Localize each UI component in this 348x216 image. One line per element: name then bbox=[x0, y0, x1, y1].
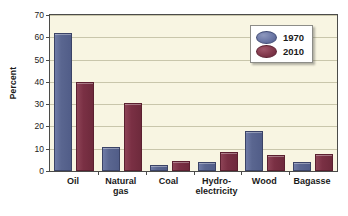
x-axis-tick-label: Hydro- electricity bbox=[193, 176, 241, 196]
y-axis-tick-label: 10 bbox=[35, 144, 44, 154]
bar-2010 bbox=[124, 103, 142, 171]
bar-1970 bbox=[150, 165, 168, 171]
x-axis-tick-label: Coal bbox=[145, 176, 193, 186]
bar-top-highlight bbox=[103, 148, 119, 149]
x-axis-tick bbox=[289, 171, 290, 175]
x-axis-tick-label: Oil bbox=[49, 176, 97, 186]
y-axis-tick bbox=[46, 171, 50, 172]
bar-top-highlight bbox=[246, 132, 262, 133]
bar-top-highlight bbox=[316, 155, 332, 156]
bar-group bbox=[194, 15, 242, 171]
legend-swatch-2010-icon bbox=[256, 45, 277, 58]
legend-item-1970: 1970 bbox=[256, 30, 304, 44]
bar-1970 bbox=[198, 162, 216, 171]
bar-group bbox=[50, 15, 98, 171]
y-axis-tick-label: 0 bbox=[39, 166, 44, 176]
legend-item-2010: 2010 bbox=[256, 44, 304, 58]
x-axis-tick-label: Natural gas bbox=[97, 176, 145, 196]
bar-group bbox=[98, 15, 146, 171]
bar-1970 bbox=[293, 162, 311, 171]
bar-top-highlight bbox=[125, 104, 141, 105]
bar-top-highlight bbox=[173, 162, 189, 163]
y-axis-tick-label: 40 bbox=[35, 77, 44, 87]
chart-legend: 1970 2010 bbox=[250, 25, 313, 63]
y-axis-tick-label: 30 bbox=[35, 99, 44, 109]
bar-top-highlight bbox=[55, 34, 71, 35]
legend-label-1970: 1970 bbox=[283, 32, 304, 43]
x-axis-tick-label: Bagasse bbox=[288, 176, 336, 186]
x-axis-tick bbox=[241, 171, 242, 175]
legend-swatch-1970-icon bbox=[256, 31, 277, 44]
bar-top-highlight bbox=[199, 163, 215, 164]
bar-chart-figure: Percent 010203040506070 1970 2010 OilNat… bbox=[0, 0, 348, 216]
bar-1970 bbox=[245, 131, 263, 171]
bar-top-highlight bbox=[77, 83, 93, 84]
bar-1970 bbox=[54, 33, 72, 171]
y-axis-tick-label: 20 bbox=[35, 121, 44, 131]
x-axis-tick-label: Wood bbox=[240, 176, 288, 186]
bar-group bbox=[146, 15, 194, 171]
y-axis-title: Percent bbox=[8, 48, 18, 118]
x-axis-tick bbox=[146, 171, 147, 175]
bar-1970 bbox=[102, 147, 120, 172]
y-axis-tick-label: 60 bbox=[35, 32, 44, 42]
bar-2010 bbox=[315, 154, 333, 171]
bar-2010 bbox=[220, 152, 238, 171]
bar-2010 bbox=[76, 82, 94, 171]
x-axis-tick bbox=[194, 171, 195, 175]
bar-top-highlight bbox=[151, 166, 167, 167]
bar-2010 bbox=[172, 161, 190, 171]
bar-top-highlight bbox=[268, 156, 284, 157]
x-axis-tick bbox=[98, 171, 99, 175]
bar-top-highlight bbox=[221, 153, 237, 154]
bar-top-highlight bbox=[294, 163, 310, 164]
legend-label-2010: 2010 bbox=[283, 46, 304, 57]
y-axis-tick-label: 50 bbox=[35, 55, 44, 65]
bar-2010 bbox=[267, 155, 285, 171]
y-axis-tick-label: 70 bbox=[35, 10, 44, 20]
